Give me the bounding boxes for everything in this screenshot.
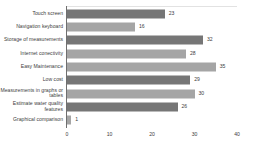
bar-value-label: 29	[194, 78, 200, 84]
bar-track	[67, 9, 165, 18]
bar	[67, 89, 195, 98]
bar-row: Low cost29	[0, 74, 256, 87]
bar-track	[67, 116, 71, 125]
x-axis-tick-label: 0	[66, 131, 69, 137]
bar-row: Storage of measurements32	[0, 34, 256, 47]
bar-value-label: 26	[182, 104, 188, 110]
bar-row: Easy Maintenance35	[0, 60, 256, 73]
category-label: Low cost	[0, 78, 63, 84]
x-axis-tick-label: 10	[107, 131, 113, 137]
category-label: Estimate water quality features	[0, 101, 63, 112]
bar-value-label: 28	[190, 51, 196, 57]
category-label: Touch screen	[0, 11, 63, 17]
category-label: Navigation keyboard	[0, 24, 63, 30]
bar	[67, 62, 216, 71]
bar-value-label: 32	[207, 38, 213, 44]
category-label: Internet conectivity	[0, 51, 63, 57]
bar-row: Graphical comparison1	[0, 114, 256, 127]
bar-row: Internet conectivity28	[0, 47, 256, 60]
bar-value-label: 1	[75, 118, 78, 124]
bar-track	[67, 62, 216, 71]
bar	[67, 22, 135, 31]
bar	[67, 36, 203, 45]
bar	[67, 9, 165, 18]
bar	[67, 76, 190, 85]
bar-track	[67, 102, 178, 111]
bar-track	[67, 22, 135, 31]
category-label: Graphical comparison	[0, 118, 63, 124]
bar-row: Measurements in graphs or tables30	[0, 87, 256, 100]
x-axis-tick-label: 40	[234, 131, 240, 137]
bar-track	[67, 89, 195, 98]
bar-value-label: 23	[169, 11, 175, 17]
bar	[67, 102, 178, 111]
x-axis-tick-label: 20	[149, 131, 155, 137]
bar	[67, 116, 71, 125]
bar	[67, 49, 186, 58]
category-label: Storage of measurements	[0, 38, 63, 44]
horizontal-bar-chart: Touch screen23Navigation keyboard16Stora…	[0, 0, 256, 151]
bar-value-label: 35	[220, 64, 226, 70]
x-axis-tick-label: 30	[192, 131, 198, 137]
category-label: Measurements in graphs or tables	[0, 88, 63, 99]
bar-track	[67, 36, 203, 45]
bar-value-label: 30	[199, 91, 205, 97]
bar-track	[67, 49, 186, 58]
x-axis: 010203040	[0, 128, 256, 142]
bar-row: Touch screen23	[0, 7, 256, 20]
bar-track	[67, 76, 190, 85]
bar-row: Estimate water quality features26	[0, 100, 256, 113]
bar-value-label: 16	[139, 24, 145, 30]
bar-row: Navigation keyboard16	[0, 20, 256, 33]
category-label: Easy Maintenance	[0, 64, 63, 70]
